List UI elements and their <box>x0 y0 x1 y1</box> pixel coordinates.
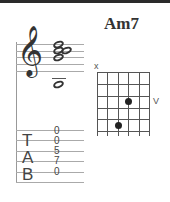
fret-line <box>97 84 150 85</box>
muted-string-marker: x <box>94 62 99 71</box>
fret-line <box>97 72 150 73</box>
fret-line <box>97 108 150 109</box>
tab-letter-b: B <box>22 166 33 183</box>
string-line <box>149 72 150 136</box>
fret-line <box>97 96 150 97</box>
chord-name: Am7 <box>104 14 139 34</box>
string-line <box>107 72 108 136</box>
fret-line <box>97 131 150 132</box>
tab-letter-t: T <box>22 132 32 149</box>
string-line <box>97 72 98 136</box>
fret-position-marker: V <box>153 97 159 106</box>
ledger-line <box>52 78 66 79</box>
finger-dot <box>125 98 132 105</box>
tab-fret: 0 <box>54 167 60 177</box>
string-line <box>139 72 140 136</box>
treble-clef-icon: 𝄞 <box>17 28 43 72</box>
fret-line <box>97 119 150 120</box>
tab-letter-a: A <box>22 149 33 166</box>
tab-fret: 7 <box>54 156 60 166</box>
finger-dot <box>115 122 122 129</box>
note-head <box>52 79 65 89</box>
top-border <box>0 0 170 3</box>
